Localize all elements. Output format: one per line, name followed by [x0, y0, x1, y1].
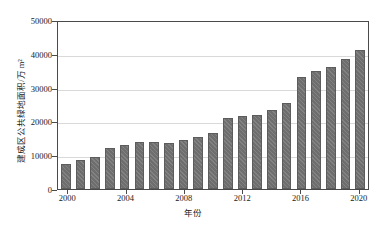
bar	[149, 142, 159, 189]
x-axis-title: 年份	[0, 206, 385, 218]
plot-area	[57, 21, 369, 190]
x-tick-mark	[67, 190, 68, 194]
bar	[341, 59, 351, 189]
x-tick-label: 2016	[292, 193, 309, 203]
bar	[90, 157, 100, 189]
x-tick-mark	[184, 190, 185, 194]
bar	[76, 160, 86, 189]
y-tick-label: 20000	[10, 117, 52, 127]
bar	[179, 140, 189, 189]
bar	[297, 77, 307, 189]
y-tick-mark	[52, 190, 57, 191]
bar	[105, 148, 115, 189]
x-tick-mark	[359, 190, 360, 194]
y-tick-mark	[52, 21, 57, 22]
bar	[238, 116, 248, 189]
bar	[267, 110, 277, 189]
y-tick-label: 30000	[10, 84, 52, 94]
bar	[193, 137, 203, 189]
bar-series	[58, 22, 368, 189]
y-tick-mark	[52, 89, 57, 90]
x-tick-label: 2008	[175, 193, 192, 203]
x-tick-mark	[300, 190, 301, 194]
bar	[282, 103, 292, 189]
y-tick-label: 0	[10, 185, 52, 195]
bar	[311, 71, 321, 189]
bar	[61, 164, 71, 189]
bar	[120, 145, 130, 189]
bar	[164, 143, 174, 189]
x-tick-label: 2000	[59, 193, 76, 203]
x-tick-mark	[126, 190, 127, 194]
y-tick-mark	[52, 156, 57, 157]
x-tick-mark	[242, 190, 243, 194]
bar	[208, 133, 218, 189]
x-tick-label: 2012	[234, 193, 251, 203]
x-tick-label: 2020	[350, 193, 367, 203]
bar	[326, 67, 336, 189]
bar	[223, 118, 233, 189]
x-tick-label: 2004	[117, 193, 134, 203]
bar	[252, 115, 262, 189]
bar	[355, 50, 365, 189]
bar	[135, 142, 145, 189]
y-tick-label: 50000	[10, 16, 52, 26]
y-tick-label: 40000	[10, 50, 52, 60]
chart-figure: 建成区公共绿地面积/万 m² 年份 0100002000030000400005…	[0, 0, 385, 236]
y-tick-label: 10000	[10, 151, 52, 161]
y-tick-mark	[52, 122, 57, 123]
y-tick-mark	[52, 55, 57, 56]
